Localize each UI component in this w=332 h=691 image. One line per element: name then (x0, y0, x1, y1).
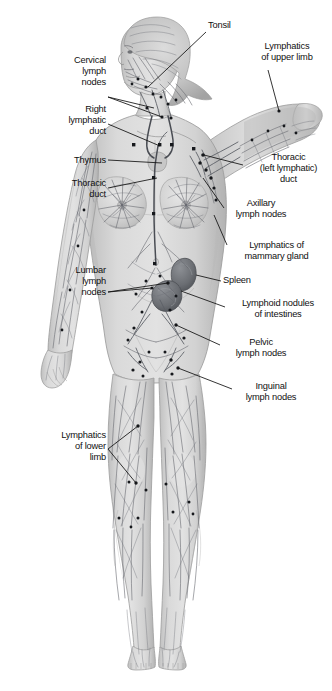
label-lymphatics-lower-limb: Lymphatics of lower limb (24, 430, 106, 464)
label-thymus: Thymus (32, 155, 106, 166)
label-pelvic-lymph-nodes: Pelvic lymph nodes (220, 337, 302, 359)
lymphatic-system-diagram: .vs{fill:none;stroke:#5c5f66;stroke-widt… (0, 0, 332, 691)
label-inguinal-lymph-nodes: Inguinal lymph nodes (230, 381, 312, 403)
label-axillary-lymph-nodes: Axillary lymph nodes (222, 198, 300, 220)
label-cervical-lymph-nodes: Cervical lymph nodes (44, 55, 106, 89)
label-spleen: Spleen (223, 275, 251, 286)
label-thoracic-left-lymphatic-duct: Thoracic (left lymphatic) duct (245, 152, 332, 186)
label-tonsil: Tonsil (208, 20, 231, 31)
label-lymphatics-upper-limb: Lymphatics of upper limb (243, 41, 331, 63)
label-thoracic-duct: Thoracic duct (30, 178, 106, 200)
label-lymphoid-nodules-of-intestines: Lymphoid nodules of intestines (224, 298, 332, 320)
label-lymphatics-mammary-gland: Lymphatics of mammary gland (224, 240, 329, 262)
label-lumbar-lymph-nodes: Lumbar lymph nodes (30, 265, 106, 299)
label-right-lymphatic-duct: Right lymphatic duct (26, 104, 106, 138)
